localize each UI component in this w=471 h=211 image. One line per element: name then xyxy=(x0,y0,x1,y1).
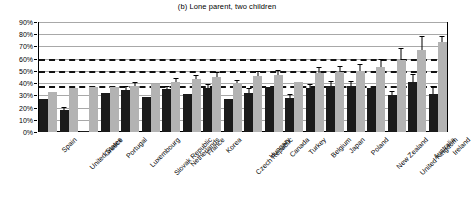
error-bar xyxy=(351,82,352,86)
error-bar xyxy=(330,82,331,86)
error-bar-cap xyxy=(62,107,67,108)
y-axis-tick-label: 10% xyxy=(0,116,33,123)
error-bar-cap xyxy=(399,48,404,49)
bar-rect xyxy=(60,110,69,132)
error-bar-cap xyxy=(378,59,383,60)
bar-group xyxy=(284,22,305,132)
bar-group xyxy=(141,22,162,132)
bar-rect xyxy=(356,71,365,132)
bar-rect xyxy=(151,84,160,132)
y-axis-tick-label: 20% xyxy=(0,104,33,111)
bar-rect xyxy=(89,87,98,132)
bar-dark xyxy=(306,22,315,132)
error-bar-cap xyxy=(205,84,210,85)
x-axis-tick-label: Poland xyxy=(369,136,389,156)
bar-group xyxy=(387,22,408,132)
y-axis-tick-mark xyxy=(34,46,37,47)
bar-rect xyxy=(294,82,303,132)
bar-rect xyxy=(224,99,233,132)
error-bar xyxy=(380,60,381,67)
y-axis-tick-label: 90% xyxy=(0,19,33,26)
bar-group xyxy=(407,22,428,132)
bar-rect xyxy=(203,88,212,132)
bar-rect xyxy=(347,86,356,132)
bar-dark xyxy=(285,22,294,132)
bar-rect xyxy=(367,88,376,132)
bar-light xyxy=(110,22,119,132)
error-bar xyxy=(207,85,208,88)
error-bar-cap xyxy=(246,88,251,89)
error-bar-cap xyxy=(235,80,240,81)
y-axis-tick-label: 50% xyxy=(0,67,33,74)
x-axis-tick-label: Turkey xyxy=(308,136,328,156)
error-bar xyxy=(392,92,393,95)
error-bar-cap xyxy=(276,70,281,71)
bar-rect xyxy=(438,42,447,132)
bar-rect xyxy=(48,92,57,132)
error-bar-cap xyxy=(410,74,415,75)
bar-group xyxy=(38,22,59,132)
y-axis-tick-mark xyxy=(34,59,37,60)
bar-light xyxy=(171,22,180,132)
chart-title: (b) Lone parent, two children xyxy=(0,2,454,11)
error-bar xyxy=(433,87,434,94)
error-bar xyxy=(237,81,238,83)
bar-dark xyxy=(121,22,130,132)
x-axis-tick-label: Luxembourg xyxy=(149,136,181,168)
bar-light xyxy=(294,22,303,132)
error-bar-cap xyxy=(358,64,363,65)
y-axis-tick-label: 40% xyxy=(0,80,33,87)
error-bar-cap xyxy=(308,84,313,85)
bar-dark xyxy=(224,22,233,132)
error-bar-cap xyxy=(349,81,354,82)
bar-group xyxy=(182,22,203,132)
bar-dark xyxy=(326,22,335,132)
bar-light xyxy=(212,22,221,132)
bar-dark xyxy=(408,22,417,132)
error-bar-cap xyxy=(214,72,219,73)
bar-rect xyxy=(110,87,119,132)
bar-light xyxy=(151,22,160,132)
bar-light xyxy=(69,22,78,132)
error-bar xyxy=(360,65,361,71)
bar-dark xyxy=(244,22,253,132)
y-axis-tick-label: 80% xyxy=(0,31,33,38)
error-bar-cap xyxy=(132,82,137,83)
bar-rect xyxy=(130,86,139,132)
bar-group xyxy=(100,22,121,132)
error-bar xyxy=(310,85,311,88)
error-bar xyxy=(319,68,320,73)
y-axis-tick-label: 60% xyxy=(0,55,33,62)
y-axis-tick-mark xyxy=(34,132,37,133)
bar-light xyxy=(274,22,283,132)
bar-rect xyxy=(162,89,171,132)
bar-rect xyxy=(101,93,110,132)
error-bar xyxy=(196,76,197,80)
error-bar xyxy=(257,72,258,76)
y-axis: 0%10%20%30%40%50%60%70%80%90% xyxy=(0,22,38,132)
bar-group xyxy=(223,22,244,132)
bar-light xyxy=(192,22,201,132)
bar-group xyxy=(366,22,387,132)
bar-dark xyxy=(347,22,356,132)
bar-rect xyxy=(417,50,426,132)
x-axis-labels: SpainUnited StatesGreecePortugalLuxembou… xyxy=(38,132,448,211)
bar-dark xyxy=(367,22,376,132)
x-axis-tick-label: Spain xyxy=(61,136,79,154)
x-axis-tick-label: Portugal xyxy=(125,136,148,159)
bar-dark xyxy=(60,22,69,132)
bar-group xyxy=(202,22,223,132)
bar-rect xyxy=(265,87,274,132)
error-bar xyxy=(339,67,340,72)
bar-rect xyxy=(192,79,201,132)
error-bar xyxy=(442,37,443,42)
error-bar-cap xyxy=(440,36,445,37)
bar-group xyxy=(161,22,182,132)
bar-rect xyxy=(121,90,130,132)
bar-dark xyxy=(142,22,151,132)
error-bar xyxy=(175,79,176,81)
bar-rect xyxy=(429,94,438,132)
error-bar-cap xyxy=(431,86,436,87)
bar-group xyxy=(79,22,100,132)
error-bar xyxy=(64,108,65,110)
